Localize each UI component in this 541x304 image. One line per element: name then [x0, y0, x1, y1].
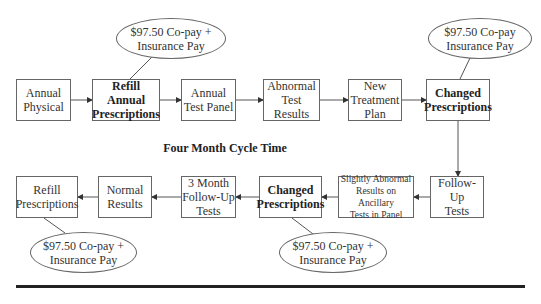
cost-note-label: $97.50 Co-pay + Insurance Pay: [43, 239, 124, 267]
node-label: Slightly Abnormal Results on Ancillary T…: [339, 173, 413, 221]
connector-cost-changed-bottom: [292, 218, 313, 234]
node-label: Follow-Up Tests: [431, 176, 483, 218]
node-refill-annual-prescriptions: Refill Annual Prescriptions: [92, 79, 160, 121]
node-abnormal-test-results: Abnormal Test Results: [263, 79, 320, 121]
node-label: Abnormal Test Results: [264, 79, 319, 121]
node-label: Changed Prescriptions: [257, 183, 325, 211]
node-slightly-abnormal-results: Slightly Abnormal Results on Ancillary T…: [338, 176, 414, 218]
node-annual-physical: Annual Physical: [16, 79, 71, 121]
cost-note-refill-annual: $97.50 Co-pay + Insurance Pay: [116, 18, 226, 59]
cycle-time-caption: Four Month Cycle Time: [120, 141, 330, 156]
node-label: 3 Month Follow-Up Tests: [182, 176, 235, 218]
cost-note-label: $97.50 Co-pay + Insurance Pay: [130, 25, 211, 53]
node-follow-up-tests: Follow-Up Tests: [430, 176, 484, 218]
node-label: Refill Prescriptions: [16, 183, 79, 211]
cost-note-label: $97.50 Co-pay + Insurance Pay: [292, 239, 373, 267]
connector-cost-refill-annual: [130, 57, 152, 79]
node-label: Refill Annual Prescriptions: [92, 79, 160, 121]
cost-note-label: $97.50 Co-pay Insurance Pay: [444, 25, 515, 53]
node-three-month-follow-up-tests: 3 Month Follow-Up Tests: [181, 176, 236, 218]
cost-note-changed-bottom: $97.50 Co-pay + Insurance Pay: [279, 232, 387, 273]
horizontal-rule: [16, 285, 525, 288]
node-annual-test-panel: Annual Test Panel: [181, 79, 236, 121]
node-label: Changed Prescriptions: [424, 86, 492, 114]
node-label: Normal Results: [107, 183, 144, 211]
node-label: New Treatment Plan: [351, 79, 400, 121]
connector-cost-refill: [44, 218, 65, 233]
node-new-treatment-plan: New Treatment Plan: [348, 79, 402, 121]
cost-note-changed-top: $97.50 Co-pay Insurance Pay: [428, 18, 532, 59]
node-changed-prescriptions-bottom: Changed Prescriptions: [259, 176, 322, 218]
node-label: Annual Test Panel: [184, 86, 233, 114]
node-changed-prescriptions-top: Changed Prescriptions: [426, 79, 490, 121]
node-label: Annual Physical: [23, 86, 64, 114]
node-normal-results: Normal Results: [98, 176, 152, 218]
cost-note-refill: $97.50 Co-pay + Insurance Pay: [30, 232, 137, 273]
connector-cost-changed-top: [460, 58, 470, 79]
node-refill-prescriptions: Refill Prescriptions: [16, 176, 78, 218]
